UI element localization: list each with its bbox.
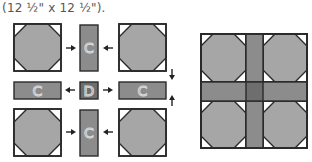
octagon-shape — [201, 34, 246, 82]
sashing-strip-c: C — [80, 110, 98, 156]
assembled-block — [201, 34, 307, 148]
sashing-strip-c: C — [119, 82, 166, 99]
exploded-layout: CCDCC — [14, 24, 175, 156]
octagon-block — [263, 101, 307, 148]
sashing-strip-c: C — [80, 25, 98, 71]
arrow-right — [66, 129, 76, 135]
octagon-block — [263, 34, 307, 82]
arrow-left — [65, 87, 75, 93]
octagon-shape — [119, 24, 166, 71]
octagon-block — [201, 34, 246, 82]
arrow-down — [169, 69, 175, 80]
octagon-shape — [263, 101, 307, 148]
octagon-shape — [14, 109, 61, 156]
octagon-shape — [14, 24, 61, 71]
center-square — [246, 82, 263, 101]
arrow-head — [103, 129, 108, 135]
arrow-head — [71, 129, 76, 135]
octagon-shape — [201, 101, 246, 148]
arrow-head — [169, 95, 175, 100]
octagon-shape — [263, 34, 307, 82]
center-square-d-label: D — [84, 83, 95, 99]
sashing-strip-c-label: C — [138, 83, 148, 99]
octagon-block — [14, 109, 61, 156]
arrow-head — [71, 45, 76, 51]
arrow-up — [169, 95, 175, 106]
sashing-strip-c-label: C — [84, 40, 94, 56]
sashing-strip-c: C — [14, 82, 61, 99]
arrow-head — [103, 45, 108, 51]
block-assembly-diagram: CCDCC — [0, 0, 312, 162]
sashing-strip-c-label: C — [33, 83, 43, 99]
octagon-block — [119, 109, 166, 156]
arrow-left — [103, 45, 113, 51]
arrow-right — [66, 45, 76, 51]
arrow-head — [108, 87, 113, 93]
arrow-head — [169, 75, 175, 80]
octagon-block — [119, 24, 166, 71]
sashing-strip-c-label: C — [84, 125, 94, 141]
center-square-d: D — [80, 82, 98, 99]
octagon-block — [201, 101, 246, 148]
octagon-shape — [119, 109, 166, 156]
octagon-block — [14, 24, 61, 71]
arrow-right — [103, 87, 113, 93]
arrow-head — [65, 87, 70, 93]
arrow-left — [103, 129, 113, 135]
